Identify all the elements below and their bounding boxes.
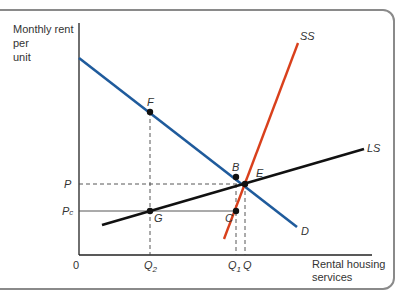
point-label-E: E	[256, 167, 263, 180]
point-label-B: B	[232, 161, 239, 174]
price-label-P: P	[64, 178, 71, 191]
point-label-F: F	[147, 96, 154, 109]
point-label-G: G	[154, 212, 163, 225]
quantity-label-Q2: Q2	[144, 259, 157, 276]
y-axis-label-line2: per	[13, 37, 29, 50]
price-label-Pc: Pc	[62, 205, 73, 219]
origin-label: 0	[73, 259, 79, 272]
y-axis-label-line3: unit	[13, 51, 31, 64]
point-E	[242, 181, 248, 187]
quantity-label-Q1: Q1	[228, 259, 241, 276]
point-B	[233, 174, 239, 180]
point-C	[233, 208, 239, 214]
curve-label-SS: SS	[300, 30, 315, 43]
point-G	[147, 208, 153, 214]
quantity-label-Q: Q	[243, 259, 252, 272]
rent-control-diagram	[0, 0, 412, 300]
curve-label-D: D	[301, 225, 309, 238]
demand-curve	[79, 58, 297, 227]
point-F	[147, 109, 153, 115]
x-axis-label-line2: services	[312, 271, 352, 284]
curve-label-LS: LS	[367, 142, 380, 155]
point-label-C: C	[225, 212, 233, 225]
y-axis-label-line1: Monthly rent	[13, 23, 74, 36]
x-axis-label-line1: Rental housing	[312, 258, 385, 271]
